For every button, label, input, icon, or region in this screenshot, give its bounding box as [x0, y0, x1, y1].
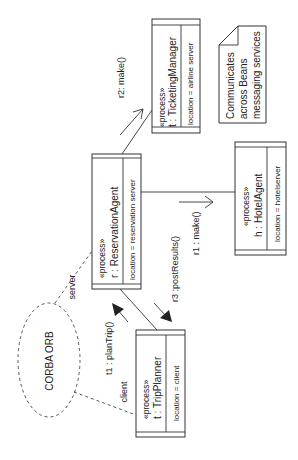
note-line-1: Communicates — [225, 52, 236, 119]
client-label: client — [119, 381, 129, 403]
note-line-2: across Beans — [238, 58, 249, 119]
r3-arrow-shaft — [154, 303, 166, 316]
collaboration-diagram: CORBA ORB server client «process» t : Ti… — [0, 0, 298, 460]
object-attribute: location = airline server — [186, 42, 195, 125]
object-stereotype: «process» — [141, 380, 151, 419]
object-hotel-agent: «process» h : HotelAgent location = hote… — [235, 142, 286, 255]
r1-label: r1 : make() — [191, 211, 201, 255]
orb-label: CORBA ORB — [44, 331, 55, 391]
link-reservation-trip — [120, 289, 157, 330]
t1-label: t1 : planTrip() — [104, 322, 114, 375]
object-name: t : TicketingManager — [167, 36, 178, 127]
r2-label: r2: make() — [116, 57, 126, 98]
r3-label: r3 :postResults() — [170, 236, 180, 302]
object-attribute: location = reservation server — [128, 179, 137, 280]
note: Communicates across Beans messaging serv… — [219, 26, 266, 123]
object-trip-planner: «process» t : TripPlanner location = cli… — [136, 330, 185, 437]
r2-arrow-shaft — [120, 109, 143, 135]
object-ticketing-manager: «process» t : TicketingManager location … — [152, 19, 200, 133]
object-attribute: location = client — [172, 365, 181, 421]
object-attribute: location = hotelserver — [273, 165, 282, 242]
object-stereotype: «process» — [241, 187, 251, 226]
object-stereotype: «process» — [97, 239, 107, 278]
message-r3: r3 :postResults() — [154, 236, 180, 322]
object-name: h : HotelAgent — [253, 173, 264, 237]
message-r2: r2: make() — [116, 57, 143, 135]
message-r1: r1 : make() — [179, 196, 213, 255]
object-name: t : TripPlanner — [152, 356, 163, 419]
object-stereotype: «process» — [157, 88, 167, 127]
server-label: server — [67, 274, 77, 299]
t1-filled-arrowhead-icon — [112, 303, 124, 316]
object-reservation-agent: «process» r : ReservationAgent location … — [92, 154, 141, 289]
object-name: r : ReservationAgent — [109, 187, 120, 278]
note-line-3: messaging services — [251, 31, 262, 119]
link-reservation-ticketing — [122, 110, 152, 154]
corba-orb: CORBA ORB — [18, 303, 80, 417]
message-t1: t1 : planTrip() — [104, 303, 128, 375]
